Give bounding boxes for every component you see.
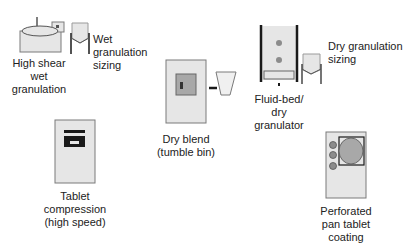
tumble-bin-icon (166, 60, 236, 123)
fluid-bed-icon (261, 25, 297, 86)
label-high-shear-wet-granulation: High shear wet granulation (6, 57, 72, 96)
label-dry-granulation-sizing: Dry granulation sizing (328, 40, 413, 66)
pan-coater-icon (326, 132, 366, 198)
label-fluid-bed-dry-granulator: Fluid-bed/ dry granulator (246, 93, 312, 132)
high-shear-granulator-icon (20, 17, 64, 52)
label-wet-granulation-sizing: Wet granulation sizing (93, 33, 153, 72)
mill-hopper-icon (302, 54, 321, 84)
label-tablet-compression: Tablet compression (high speed) (38, 190, 112, 229)
tablet-press-icon (55, 120, 95, 183)
label-dry-blend: Dry blend (tumble bin) (150, 133, 222, 159)
label-perforated-pan-coating: Perforated pan tablet coating (313, 205, 379, 244)
mill-hopper-icon (71, 23, 89, 54)
